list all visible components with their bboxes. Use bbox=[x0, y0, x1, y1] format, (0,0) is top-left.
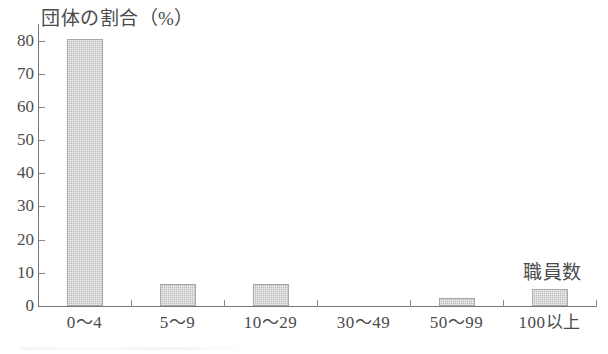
x-axis-tick-label: 10〜29 bbox=[224, 313, 317, 333]
bar bbox=[160, 284, 196, 306]
y-axis-tick-label: 10 bbox=[0, 264, 34, 281]
y-axis-tick-label: 20 bbox=[0, 231, 34, 248]
y-axis-tick-label-wrap: 70 bbox=[0, 65, 34, 82]
x-axis-tick bbox=[596, 300, 597, 307]
y-axis-tick-label: 70 bbox=[0, 65, 34, 82]
y-axis-tick-label: 60 bbox=[0, 98, 34, 115]
y-axis-tick-label-wrap: 30 bbox=[0, 197, 34, 214]
y-axis-tick bbox=[39, 206, 45, 207]
y-axis-tick-label: 80 bbox=[0, 32, 34, 49]
bar bbox=[253, 284, 289, 306]
y-axis-tick-label-wrap: 80 bbox=[0, 32, 34, 49]
x-axis-tick bbox=[224, 300, 225, 307]
x-axis-tick bbox=[410, 300, 411, 307]
x-axis-tick-label: 100以上 bbox=[503, 313, 596, 333]
y-axis-tick bbox=[39, 74, 45, 75]
y-axis-line bbox=[38, 24, 39, 307]
bar bbox=[439, 298, 475, 306]
y-axis-tick bbox=[39, 107, 45, 108]
y-axis-tick bbox=[39, 273, 45, 274]
y-axis-tick bbox=[39, 173, 45, 174]
x-axis-tick-label: 5〜9 bbox=[131, 313, 224, 333]
x-axis-tick-label: 30〜49 bbox=[317, 313, 410, 333]
y-axis-tick bbox=[39, 41, 45, 42]
bar bbox=[532, 289, 568, 306]
y-axis-title: 団体の割合（%） bbox=[41, 7, 194, 31]
y-axis-tick-label-wrap: 40 bbox=[0, 164, 34, 181]
y-axis-tick bbox=[39, 140, 45, 141]
y-axis-tick-label: 30 bbox=[0, 197, 34, 214]
x-axis-tick bbox=[503, 300, 504, 307]
y-axis-tick-label-wrap: 10 bbox=[0, 264, 34, 281]
bar-chart: 団体の割合（%） 01020304050607080 0〜45〜910〜2930… bbox=[0, 0, 608, 354]
y-axis-tick-label: 0 bbox=[0, 297, 34, 314]
y-axis-tick bbox=[39, 240, 45, 241]
x-axis-tick-label: 50〜99 bbox=[410, 313, 503, 333]
x-axis-tick bbox=[317, 300, 318, 307]
scan-artifact bbox=[20, 347, 250, 350]
y-axis-tick-label-wrap: 20 bbox=[0, 231, 34, 248]
x-axis-title: 職員数 bbox=[523, 262, 582, 284]
y-axis-tick-label: 50 bbox=[0, 131, 34, 148]
y-axis-tick-label-wrap: 50 bbox=[0, 131, 34, 148]
y-axis-tick-label: 40 bbox=[0, 164, 34, 181]
x-axis-tick-label: 0〜4 bbox=[38, 313, 131, 333]
y-axis-tick-label-wrap: 0 bbox=[0, 297, 34, 314]
bar bbox=[67, 39, 103, 306]
x-axis-tick bbox=[131, 300, 132, 307]
y-axis-tick-label-wrap: 60 bbox=[0, 98, 34, 115]
